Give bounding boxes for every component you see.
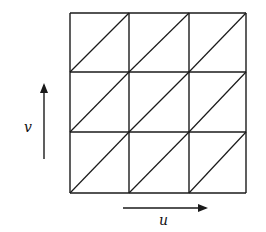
triangulated-grid-diagram: v u [0,0,266,232]
cell-diagonal [129,13,189,72]
cell-diagonals [70,13,246,193]
cell-diagonal [189,13,246,72]
cell-diagonal [70,72,129,132]
cell-diagonal [70,132,129,193]
v-axis-label: v [24,119,32,135]
cell-diagonal [129,72,189,132]
cell-diagonal [189,72,246,132]
u-axis-label: u [159,212,168,228]
cell-diagonal [129,132,189,193]
cell-diagonal [189,132,246,193]
cell-diagonal [70,13,129,72]
